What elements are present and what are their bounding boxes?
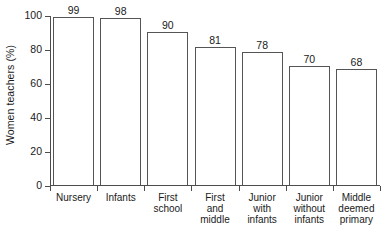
x-tick-mark bbox=[144, 186, 145, 191]
category-label-line: Middle bbox=[333, 192, 380, 203]
bar: 99 bbox=[53, 17, 94, 185]
category-label-line: Junior bbox=[286, 192, 333, 203]
bar-value-label: 98 bbox=[115, 5, 127, 17]
x-tick-mark bbox=[286, 186, 287, 191]
bar: 90 bbox=[147, 32, 188, 185]
category-label-line: and bbox=[191, 203, 238, 214]
category-label-line: middle bbox=[191, 214, 238, 225]
category-label-line: without bbox=[286, 203, 333, 214]
y-tick-mark bbox=[45, 16, 51, 17]
y-axis-title-text: Women teachers (%) bbox=[4, 45, 16, 145]
y-tick-mark bbox=[45, 152, 51, 153]
category-label: Juniorwithinfants bbox=[239, 192, 286, 226]
category-label: Middledeemedprimary bbox=[333, 192, 380, 226]
category-label-line: school bbox=[144, 203, 191, 214]
category-label-line: Junior bbox=[239, 192, 286, 203]
y-tick-mark bbox=[45, 84, 51, 85]
x-tick-mark bbox=[50, 186, 51, 191]
bar-value-label: 90 bbox=[162, 19, 174, 31]
y-axis-title: Women teachers (%) bbox=[0, 0, 20, 190]
y-tick-mark bbox=[45, 50, 51, 51]
y-tick-mark bbox=[45, 118, 51, 119]
category-label-line: Nursery bbox=[50, 192, 97, 203]
category-label-line: Infants bbox=[97, 192, 144, 203]
bar-value-label: 78 bbox=[256, 39, 268, 51]
category-label: Infants bbox=[97, 192, 144, 203]
category-label-line: First bbox=[144, 192, 191, 203]
y-axis-line bbox=[50, 16, 51, 186]
category-label: Nursery bbox=[50, 192, 97, 203]
category-label: Juniorwithoutinfants bbox=[286, 192, 333, 226]
x-tick-mark bbox=[333, 186, 334, 191]
category-label-line: primary bbox=[333, 214, 380, 225]
bar: 98 bbox=[100, 18, 141, 185]
bar: 70 bbox=[289, 66, 330, 185]
y-tick-label: 60 bbox=[30, 77, 42, 89]
category-label-line: deemed bbox=[333, 203, 380, 214]
plot-area: 020406080100 99989081787068 bbox=[50, 16, 380, 186]
y-tick-label: 80 bbox=[30, 43, 42, 55]
bar: 81 bbox=[195, 47, 236, 185]
category-label-line: First bbox=[191, 192, 238, 203]
x-tick-mark bbox=[191, 186, 192, 191]
bar-value-label: 70 bbox=[303, 53, 315, 65]
x-tick-mark bbox=[97, 186, 98, 191]
bar: 78 bbox=[242, 52, 283, 185]
y-tick-label: 100 bbox=[24, 9, 42, 21]
y-tick-label: 0 bbox=[36, 179, 42, 191]
category-label-line: infants bbox=[239, 214, 286, 225]
bar-value-label: 99 bbox=[68, 4, 80, 16]
category-label: Firstandmiddle bbox=[191, 192, 238, 226]
y-tick-label: 20 bbox=[30, 145, 42, 157]
bar-value-label: 81 bbox=[209, 34, 221, 46]
category-label-line: infants bbox=[286, 214, 333, 225]
category-label-line: with bbox=[239, 203, 286, 214]
x-tick-mark bbox=[239, 186, 240, 191]
y-tick-label: 40 bbox=[30, 111, 42, 123]
category-label: Firstschool bbox=[144, 192, 191, 214]
x-tick-mark bbox=[380, 186, 381, 191]
bar-value-label: 68 bbox=[351, 56, 363, 68]
bar-chart: Women teachers (%) 020406080100 99989081… bbox=[0, 0, 389, 234]
x-axis-line bbox=[50, 185, 380, 186]
bar: 68 bbox=[336, 69, 377, 185]
